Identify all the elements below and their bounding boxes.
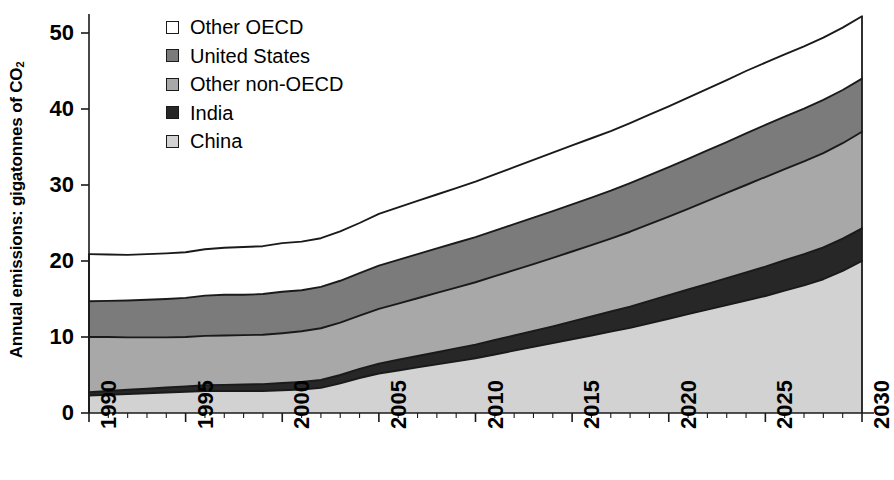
x-axis-tick-label: 2015: [581, 380, 603, 429]
x-axis-tick-label: 2020: [678, 380, 700, 429]
x-axis-tick-label: 2030: [871, 380, 893, 429]
legend-item-label: China: [190, 131, 242, 151]
legend-item-label: Other OECD: [190, 17, 303, 37]
legend-item[interactable]: United States: [166, 43, 343, 69]
legend-item[interactable]: China: [166, 128, 343, 154]
legend-swatch-icon: [166, 49, 179, 62]
x-axis-tick-label: 2025: [774, 380, 796, 429]
legend-item-label: India: [190, 103, 233, 123]
legend-swatch-icon: [166, 106, 179, 119]
legend-item-label: Other non-OECD: [190, 74, 343, 94]
x-axis-tick-label: 2005: [388, 380, 410, 429]
chart-legend: Other OECDUnited StatesOther non-OECDInd…: [166, 14, 343, 157]
x-axis-tick-label: 2010: [485, 380, 507, 429]
legend-item[interactable]: Other OECD: [166, 14, 343, 40]
legend-item[interactable]: Other non-OECD: [166, 71, 343, 97]
legend-item[interactable]: India: [166, 100, 343, 126]
x-axis-tick-label: 2000: [291, 380, 313, 429]
legend-swatch-icon: [166, 135, 179, 148]
legend-swatch-icon: [166, 21, 179, 34]
legend-item-label: United States: [190, 46, 310, 66]
x-axis-tick-label: 1995: [195, 380, 217, 429]
x-axis-tick-label: 1990: [98, 380, 120, 429]
legend-swatch-icon: [166, 78, 179, 91]
